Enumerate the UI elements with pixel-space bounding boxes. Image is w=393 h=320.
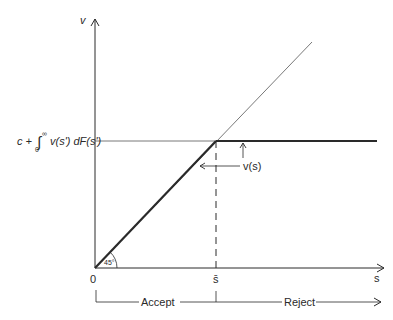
value-function-diagonal: [95, 141, 216, 268]
svg-text:c +: c +: [17, 135, 33, 147]
y-axis-label: v: [80, 14, 87, 26]
angle-label: 45°: [104, 259, 115, 266]
svg-text:∞: ∞: [42, 130, 47, 137]
curve-label: v(s): [243, 160, 261, 172]
reject-label: Reject: [284, 296, 315, 308]
origin-label: 0: [90, 273, 96, 285]
reservation-value-label: c + ∫ ∞ 0 v(s') dF(s'): [17, 130, 102, 153]
value-function-diagram: v s 0 s̄ 45° c + ∫ ∞ 0 v(s') dF(s') v(s: [0, 0, 393, 320]
x-axis-label: s: [374, 272, 380, 284]
svg-text:0: 0: [35, 146, 39, 153]
accept-label: Accept: [141, 296, 175, 308]
svg-text:v(s') dF(s'): v(s') dF(s'): [50, 135, 102, 147]
threshold-label: s̄: [213, 273, 219, 285]
